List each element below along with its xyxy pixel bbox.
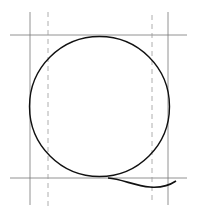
diagram-svg xyxy=(0,0,198,216)
q-tail-stroke xyxy=(108,178,176,187)
q-bowl-circle xyxy=(30,37,170,177)
q-construction-diagram xyxy=(0,0,198,216)
